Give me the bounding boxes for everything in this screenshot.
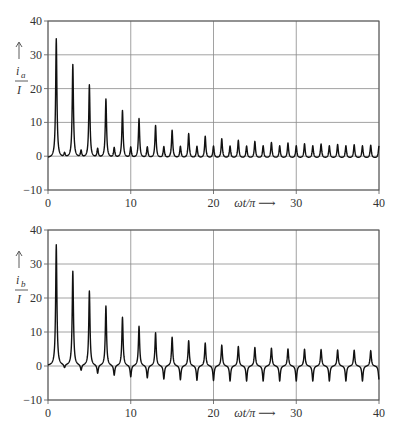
- y-tick-label: 40: [30, 14, 42, 28]
- y-tick-label: −10: [23, 393, 42, 407]
- x-tick-label: 30: [290, 406, 302, 420]
- x-tick-label: 40: [373, 196, 385, 210]
- y-tick-label: 0: [36, 149, 42, 163]
- chart-panel-ib: −10010203040010203040ωt/π ⟶ibI: [15, 223, 385, 420]
- x-axis-label: ωt/π ⟶: [234, 406, 275, 420]
- y-tick-label: 10: [30, 115, 42, 129]
- x-tick-label: 0: [45, 406, 51, 420]
- y-axis-label-denominator: I: [16, 292, 22, 306]
- chart-figure: −10010203040010203040ωt/π ⟶iaI−100102030…: [0, 0, 396, 435]
- x-axis-label: ωt/π ⟶: [234, 196, 275, 210]
- y-tick-label: 20: [30, 82, 42, 96]
- x-tick-label: 0: [45, 196, 51, 210]
- y-tick-label: 30: [30, 48, 42, 62]
- y-tick-label: −10: [23, 183, 42, 197]
- x-tick-label: 10: [125, 406, 137, 420]
- y-tick-label: 10: [30, 325, 42, 339]
- chart-panel-ia: −10010203040010203040ωt/π ⟶iaI: [15, 14, 385, 210]
- y-axis-label-subscript: b: [21, 279, 26, 289]
- y-tick-label: 0: [36, 359, 42, 373]
- x-tick-label: 20: [208, 406, 220, 420]
- y-tick-label: 40: [30, 223, 42, 237]
- x-tick-label: 10: [125, 196, 137, 210]
- x-tick-label: 40: [373, 406, 385, 420]
- y-axis-label-numerator: i: [16, 64, 19, 78]
- y-axis-label-numerator: i: [16, 273, 19, 287]
- x-tick-label: 30: [290, 196, 302, 210]
- y-tick-label: 20: [30, 291, 42, 305]
- y-tick-label: 30: [30, 257, 42, 271]
- x-tick-label: 20: [208, 196, 220, 210]
- y-axis-label-denominator: I: [16, 83, 22, 97]
- y-axis-label-subscript: a: [21, 70, 26, 80]
